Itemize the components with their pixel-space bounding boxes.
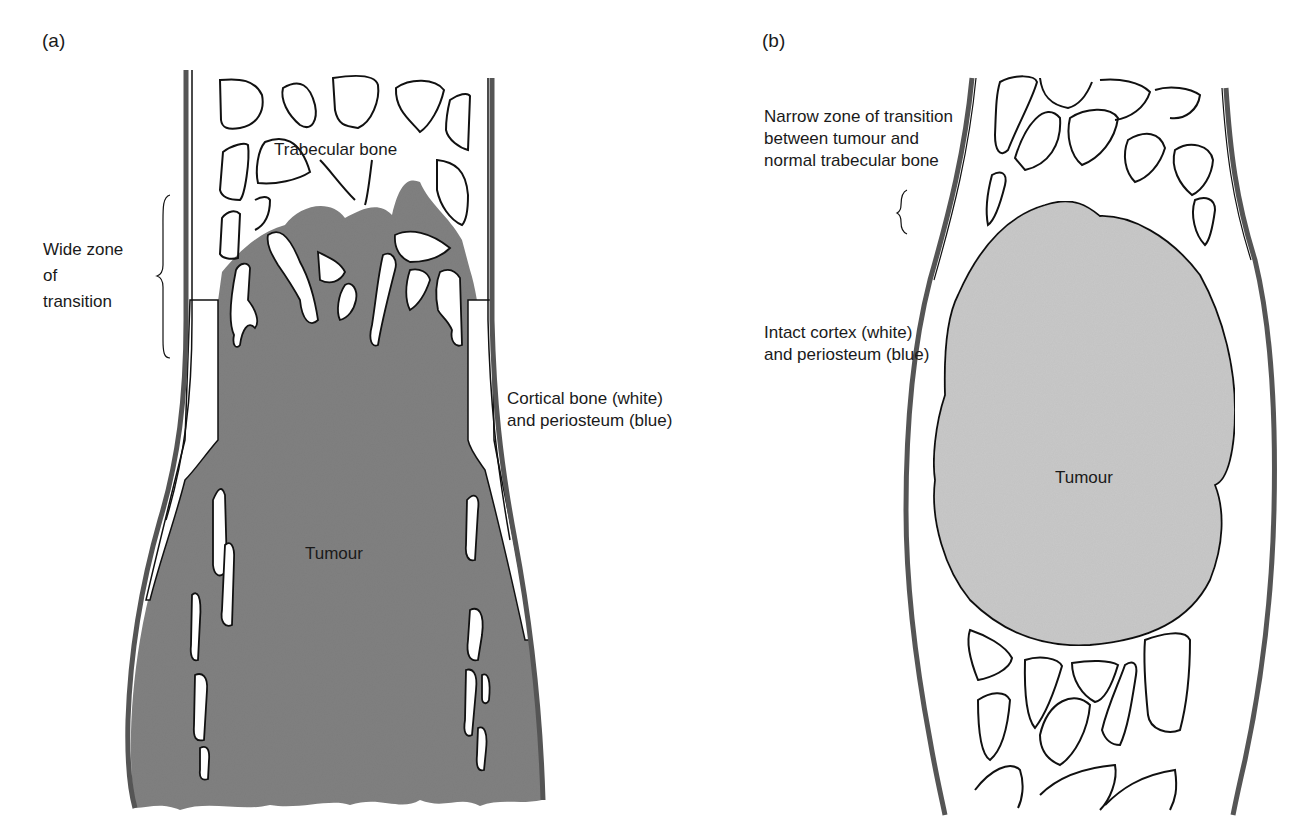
cortical-bone-label: Cortical bone (white) and periosteum (bl… bbox=[507, 388, 672, 432]
tumour-a-label: Tumour bbox=[305, 543, 363, 565]
periosteum-b-right bbox=[1226, 88, 1274, 815]
narrow-zone-brace bbox=[897, 190, 907, 234]
panel-b-label: (b) bbox=[762, 30, 785, 52]
tumour-b-mass bbox=[934, 201, 1235, 645]
intact-cortex-label: Intact cortex (white) and periosteum (bl… bbox=[764, 322, 929, 366]
trabecular-cells-b-lower bbox=[968, 630, 1190, 810]
wide-zone-brace bbox=[157, 195, 170, 358]
panel-a-drawing bbox=[128, 70, 543, 810]
panel-b-drawing bbox=[897, 76, 1274, 815]
tumour-b-label: Tumour bbox=[1055, 467, 1113, 489]
trabecular-bone-label: Trabecular bone bbox=[274, 139, 397, 161]
narrow-zone-label: Narrow zone of transition between tumour… bbox=[764, 106, 953, 172]
wide-zone-label: Wide zone of transition bbox=[43, 237, 123, 315]
